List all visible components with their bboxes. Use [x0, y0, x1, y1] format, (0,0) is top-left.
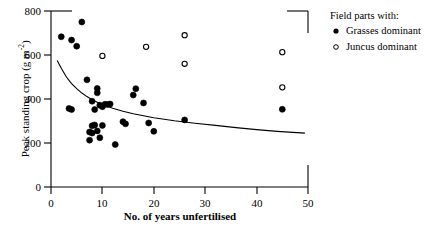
data-point [92, 107, 98, 113]
data-point [97, 135, 103, 141]
data-point [92, 122, 98, 128]
legend-title: Field parts with: [330, 10, 442, 21]
legend-label-juncus-dominant: Juncus dominant [342, 41, 417, 52]
x-axis-ticks [51, 187, 308, 194]
x-axis-title: No. of years unfertilised [51, 210, 309, 222]
data-point [130, 92, 136, 98]
x-tick-label: 10 [97, 197, 109, 209]
x-axis-tick-labels: 0 10 20 30 40 50 [48, 197, 314, 209]
data-point [100, 53, 105, 58]
data-point [182, 61, 187, 66]
y-axis-title-exponent: -2 [17, 44, 26, 50]
y-tick-label: 0 [36, 181, 42, 193]
y-axis-title-tail: ) [19, 40, 31, 44]
data-point [107, 101, 113, 107]
series-grasses-dominant [58, 19, 285, 148]
series-juncus-dominant [100, 33, 285, 90]
data-point [87, 137, 93, 143]
data-point [143, 44, 148, 49]
axis-frame [51, 11, 308, 187]
data-point [112, 142, 118, 148]
data-point [99, 122, 105, 128]
scatter-plot-figure: 0 200 400 600 800 0 10 20 30 40 50 [0, 0, 445, 234]
x-tick-label: 40 [252, 197, 264, 209]
x-tick-label: 50 [303, 197, 315, 209]
data-point [89, 98, 95, 104]
data-point [141, 100, 147, 106]
data-point [58, 34, 64, 40]
data-point [182, 33, 187, 38]
x-tick-label: 0 [48, 197, 54, 209]
data-point [279, 106, 285, 112]
legend: Field parts with: Grasses dominant Juncu… [330, 10, 442, 57]
data-point [94, 85, 100, 91]
data-point [74, 43, 80, 49]
x-tick-label: 30 [200, 197, 212, 209]
data-point [69, 37, 75, 43]
data-point [84, 77, 90, 83]
data-point [94, 128, 100, 134]
y-axis-ticks [44, 11, 51, 187]
data-point [182, 117, 188, 123]
x-tick-label: 20 [149, 197, 161, 209]
y-axis-title-text: Peak standing crop (g m [19, 50, 31, 157]
data-point [280, 50, 285, 55]
y-axis-title: Peak standing crop (g m-2) [17, 9, 31, 189]
data-point [123, 121, 129, 127]
data-point [66, 105, 72, 111]
data-point [79, 19, 85, 25]
open-circle-icon [330, 43, 342, 51]
x-axis-title-text: No. of years unfertilised [124, 210, 236, 222]
filled-circle-icon [330, 27, 342, 35]
data-point [146, 120, 152, 126]
legend-label-grasses-dominant: Grasses dominant [342, 25, 421, 36]
legend-item-juncus-dominant: Juncus dominant [330, 41, 442, 52]
data-point [133, 86, 139, 92]
data-point [280, 85, 285, 90]
legend-item-grasses-dominant: Grasses dominant [330, 25, 442, 36]
data-point [151, 128, 157, 134]
